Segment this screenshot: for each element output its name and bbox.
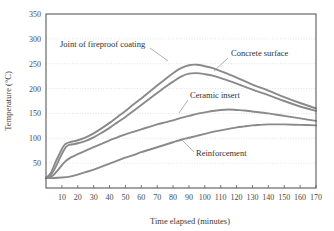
x-tick-label: 60 xyxy=(137,193,145,202)
y-tick-label: 350 xyxy=(29,10,41,19)
x-tick-label: 20 xyxy=(74,193,82,202)
series-annotation-label: Ceramic insert xyxy=(190,90,240,100)
series-annotation-label: Joint of fireproof coating xyxy=(60,39,146,49)
y-tick-label: 100 xyxy=(29,134,41,143)
y-tick-label: 250 xyxy=(29,60,41,69)
annotation-leader-line xyxy=(150,48,168,61)
x-tick-label: 120 xyxy=(231,193,243,202)
chart-svg: 1020304050607080901001101201301401501601… xyxy=(0,0,334,231)
x-tick-label: 170 xyxy=(310,193,322,202)
x-tick-label: 10 xyxy=(58,193,66,202)
x-tick-label: 100 xyxy=(199,193,211,202)
y-tick-label: 50 xyxy=(33,159,41,168)
x-tick-label: 40 xyxy=(106,193,114,202)
x-tick-label: 90 xyxy=(185,193,193,202)
annotation-leader-line xyxy=(214,58,228,71)
annotation-leader-line xyxy=(181,139,194,152)
x-tick-label: 110 xyxy=(215,193,227,202)
x-tick-label: 130 xyxy=(246,193,258,202)
y-tick-label: 150 xyxy=(29,109,41,118)
series-annotation-label: Concrete surface xyxy=(231,48,289,58)
y-tick-label: 300 xyxy=(29,35,41,44)
x-tick-label: 50 xyxy=(121,193,129,202)
curves-group xyxy=(46,65,316,178)
x-axis-title: Time elapsed (minutes) xyxy=(150,216,230,226)
series-annotation-label: Reinforcement xyxy=(196,148,247,158)
annotation-leader-line xyxy=(179,100,188,113)
x-axis-tick-labels: 1020304050607080901001101201301401501601… xyxy=(58,193,322,202)
temperature-time-chart: 1020304050607080901001101201301401501601… xyxy=(0,0,334,231)
x-tick-label: 140 xyxy=(262,193,274,202)
x-tick-label: 70 xyxy=(153,193,161,202)
series-annotations: Joint of fireproof coatingConcrete surfa… xyxy=(60,39,289,158)
y-axis-tick-labels: 50100150200250300350 xyxy=(29,10,41,168)
x-tick-label: 150 xyxy=(278,193,290,202)
x-tick-label: 30 xyxy=(90,193,98,202)
x-tick-label: 80 xyxy=(169,193,177,202)
series-curve xyxy=(46,109,316,178)
y-tick-label: 200 xyxy=(29,85,41,94)
x-tick-label: 160 xyxy=(294,193,306,202)
y-axis-title: Temperature (°C) xyxy=(3,71,13,131)
series-curve xyxy=(46,65,316,178)
